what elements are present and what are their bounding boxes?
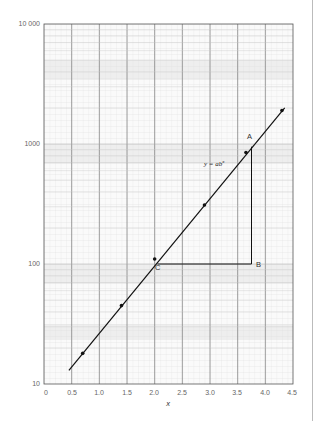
equation-label: y = abx <box>203 159 225 168</box>
x-tick-2.0: 2.0 <box>149 389 159 396</box>
y-axis-ticks: 10 100 1000 10 000 <box>19 20 41 387</box>
x-tick-4.5: 4.5 <box>287 389 297 396</box>
x-axis-label: x <box>165 399 170 408</box>
x-tick-4.0: 4.0 <box>260 389 270 396</box>
y-tick-1000: 1000 <box>24 140 40 147</box>
x-tick-3.5: 3.5 <box>232 389 242 396</box>
label-point-b: B <box>256 260 261 269</box>
log-linear-chart: 10 100 1000 10 000 0 0.5 1.0 1.5 2.0 2.5… <box>0 0 315 421</box>
y-tick-10000: 10 000 <box>19 20 41 27</box>
y-tick-100: 100 <box>28 260 40 267</box>
x-tick-1.5: 1.5 <box>122 389 132 396</box>
y-tick-10: 10 <box>32 380 40 387</box>
x-tick-2.5: 2.5 <box>177 389 187 396</box>
x-tick-3.0: 3.0 <box>205 389 215 396</box>
label-point-a: A <box>247 132 252 141</box>
x-tick-1.0: 1.0 <box>94 389 104 396</box>
x-tick-0: 0 <box>44 389 48 396</box>
x-tick-0.5: 0.5 <box>67 389 77 396</box>
label-point-c: C <box>155 263 161 272</box>
page-edge-line <box>312 0 313 421</box>
x-axis-ticks: 0 0.5 1.0 1.5 2.0 2.5 3.0 3.5 4.0 4.5 <box>44 389 297 396</box>
plot-area <box>44 24 293 384</box>
